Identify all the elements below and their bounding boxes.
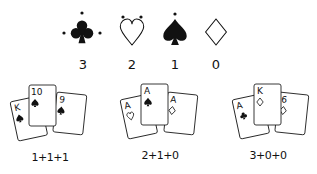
hand-2: A A A 2+1+0 bbox=[105, 80, 215, 174]
card-ace-of-diamonds: A bbox=[164, 92, 198, 135]
svg-text:A: A bbox=[144, 86, 151, 96]
hand-3-cards: A 6 K bbox=[210, 80, 317, 150]
card-ace-of-spades: A bbox=[141, 84, 168, 125]
heart-points: 2 bbox=[122, 58, 142, 72]
svg-text:10: 10 bbox=[31, 87, 43, 97]
card-nine-of-spades: 9 bbox=[53, 92, 87, 135]
diamond-icon bbox=[196, 10, 236, 54]
spade-points: 1 bbox=[165, 58, 185, 72]
hand-2-label: 2+1+0 bbox=[135, 150, 185, 162]
spade-icon bbox=[155, 10, 195, 54]
club-icon bbox=[62, 10, 102, 54]
club-points: 3 bbox=[73, 58, 93, 72]
suit-values-row: 3 2 1 0 bbox=[0, 0, 317, 75]
card-ten-of-spades: 10 bbox=[29, 85, 56, 126]
hand-1-cards: K 9 10 bbox=[0, 80, 105, 150]
card-king-of-diamonds: K bbox=[254, 84, 281, 125]
heart-icon bbox=[112, 10, 152, 54]
hand-3: A 6 K 3+0+0 bbox=[210, 80, 317, 174]
hand-2-cards: A A A bbox=[105, 80, 215, 150]
hand-1: K 9 10 1+1+1 bbox=[0, 80, 105, 174]
hand-1-label: 1+1+1 bbox=[25, 152, 75, 164]
diamond-points: 0 bbox=[206, 58, 226, 72]
hand-3-label: 3+0+0 bbox=[243, 150, 293, 162]
